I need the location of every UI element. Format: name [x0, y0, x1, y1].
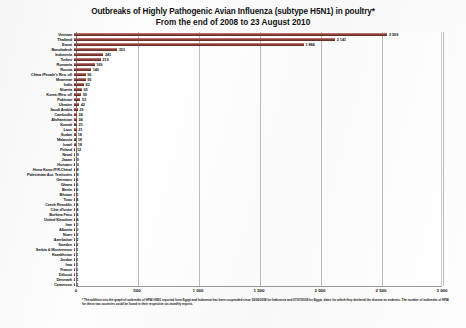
- bar-value-label: 9: [77, 163, 79, 167]
- category-label: Korea (Rep. of): [0, 93, 74, 97]
- bar: [74, 173, 75, 176]
- bar: [74, 123, 77, 126]
- category-label: Myanmar: [0, 78, 74, 82]
- category-label: Cameroon: [0, 283, 74, 287]
- bar-value-label: 3: [76, 228, 78, 232]
- category-label: Iran: [0, 223, 74, 227]
- category-label: Iraq: [0, 263, 74, 267]
- category-label: Niger: [0, 233, 74, 237]
- bar-value-label: 82: [86, 83, 90, 87]
- bar-value-label: 1: [76, 283, 78, 287]
- bar-value-label: 1: [76, 258, 78, 262]
- bar-value-label: 1: [76, 248, 78, 252]
- bar: [74, 113, 77, 116]
- bar: [74, 118, 77, 121]
- bar: [74, 93, 81, 96]
- bar-value-label: 353: [119, 48, 125, 52]
- bar: [74, 98, 80, 101]
- bar: [74, 128, 77, 131]
- bar-value-label: 59: [83, 93, 87, 97]
- category-label: Turkey: [0, 58, 74, 62]
- category-label: Romania: [0, 63, 74, 67]
- category-label: Azerbaijan: [0, 238, 74, 242]
- x-axis-tick-label: 500: [133, 288, 140, 293]
- bar: [74, 83, 84, 86]
- bar: [74, 203, 75, 206]
- bar: [74, 273, 75, 276]
- category-label: Djibouti: [0, 273, 74, 277]
- bar-value-label: 12: [77, 148, 81, 152]
- bar-value-label: 4: [76, 218, 78, 222]
- bar: [74, 178, 75, 181]
- bar-value-label: 18: [78, 143, 82, 147]
- category-label: Saudi Arabia: [0, 108, 74, 112]
- category-label: Benin: [0, 188, 74, 192]
- bar: [74, 108, 78, 111]
- bar-value-label: 96: [87, 73, 91, 77]
- bar-value-label: 9: [77, 153, 79, 157]
- bar-value-label: 24: [79, 113, 83, 117]
- bar-value-label: 1: [76, 253, 78, 257]
- category-label: Indonesia: [0, 53, 74, 57]
- category-label: Denmark: [0, 278, 74, 282]
- bar-value-label: 1: [76, 278, 78, 282]
- bar: [74, 168, 75, 171]
- category-label: Malaysia: [0, 138, 74, 142]
- chart-footnote: * The addition into the graph of outbrea…: [82, 298, 452, 307]
- bar: [74, 138, 76, 141]
- bar-value-label: 169: [96, 63, 102, 67]
- bar-value-label: 2: [76, 238, 78, 242]
- bar: [74, 53, 103, 56]
- category-label: Laos: [0, 128, 74, 132]
- bar: [74, 218, 75, 221]
- category-label: India: [0, 83, 74, 87]
- category-label: Bangladesh: [0, 48, 74, 52]
- category-label: Cambodia: [0, 113, 74, 117]
- bar-value-label: 24: [79, 118, 83, 122]
- bar-value-label: 23: [78, 123, 82, 127]
- bar-value-label: 21: [78, 128, 82, 132]
- bar: [74, 148, 75, 151]
- category-label: Togo: [0, 198, 74, 202]
- bar-value-label: 1: [76, 263, 78, 267]
- bar-value-label: 18: [78, 138, 82, 142]
- bar: [74, 233, 75, 236]
- category-label: Ghana: [0, 183, 74, 187]
- bar: [74, 158, 75, 161]
- category-label: Burkina Faso: [0, 213, 74, 217]
- bar-value-label: 4: [76, 208, 78, 212]
- bar-value-label: 2: [76, 243, 78, 247]
- bar-value-label: 53: [82, 98, 86, 102]
- category-label: France: [0, 268, 74, 272]
- bar-value-label: 5: [76, 193, 78, 197]
- bar: [74, 263, 75, 266]
- category-label: Japan: [0, 158, 74, 162]
- category-label: Serbia & Montenegro: [0, 248, 74, 252]
- bar-value-label: 241: [105, 53, 111, 57]
- bar-container: 1: [74, 282, 466, 287]
- bar-value-label: 3: [76, 223, 78, 227]
- bar-value-label: 29: [79, 108, 83, 112]
- bar: [74, 133, 76, 136]
- category-label: Pakistan: [0, 98, 74, 102]
- bar: [74, 153, 75, 156]
- bar: [74, 228, 75, 231]
- bar: [74, 63, 95, 66]
- bar-value-label: 42: [81, 103, 85, 107]
- bar: [74, 73, 86, 76]
- bar: [74, 258, 75, 261]
- category-label: Côte d'Ivoire: [0, 208, 74, 212]
- x-axis-tick-label: 3 000: [437, 288, 448, 293]
- category-label: Afghanistan: [0, 118, 74, 122]
- x-axis-tick-label: 0: [75, 288, 77, 293]
- category-label: Russia: [0, 68, 74, 72]
- category-label: Kazakhstan: [0, 253, 74, 257]
- bar: [74, 243, 75, 246]
- bar-value-label: 95: [87, 78, 91, 82]
- bar-value-label: 219: [102, 58, 108, 62]
- bar: [74, 188, 75, 191]
- x-axis-tick-label: 1 000: [193, 288, 204, 293]
- category-label: Egypt: [0, 43, 74, 47]
- bar: [74, 248, 75, 251]
- category-label: China (People's Rep. of): [0, 73, 74, 77]
